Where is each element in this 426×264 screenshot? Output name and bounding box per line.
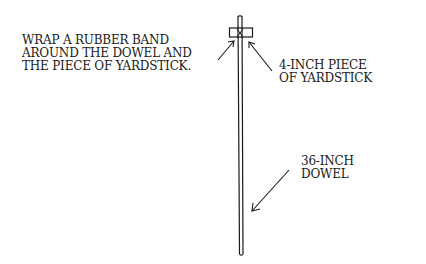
dowel-label-line-2: DOWEL xyxy=(301,168,354,181)
yardstick-piece-label: 4-INCH PIECE OF YARDSTICK xyxy=(279,59,372,85)
rubber-band-label: WRAP A RUBBER BAND AROUND THE DOWEL AND … xyxy=(22,34,192,73)
arrow-rubber-band xyxy=(218,41,234,60)
dowel xyxy=(238,16,243,255)
arrow-dowel xyxy=(252,170,289,211)
yardstick-piece xyxy=(230,27,253,38)
dowel-label: 36-INCH DOWEL xyxy=(301,155,354,181)
arrow-yardstick-piece xyxy=(249,42,272,71)
yardstick-piece-label-line-2: OF YARDSTICK xyxy=(279,72,372,85)
rubber-band-label-line-3: THE PIECE OF YARDSTICK. xyxy=(22,60,192,73)
